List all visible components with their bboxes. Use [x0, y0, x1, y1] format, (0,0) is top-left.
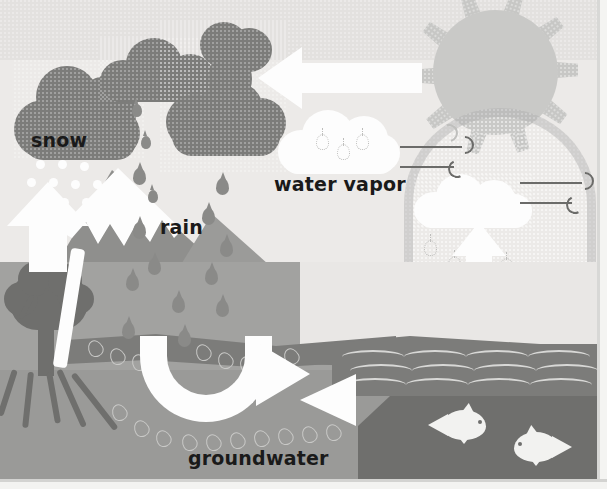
label-water-vapor: water vapor — [274, 173, 406, 195]
shoreline-plain — [300, 262, 600, 346]
rain-drop-icon — [132, 104, 142, 117]
wind-swirl-icon — [445, 157, 468, 180]
wind-line — [520, 202, 572, 204]
diagram-canvas: snow rain water vapor groundwater — [0, 0, 600, 482]
vapor-droplet-icon — [424, 240, 437, 256]
label-groundwater: groundwater — [188, 447, 329, 469]
rain-drop-icon — [216, 300, 229, 317]
storm-cloud-icon — [160, 22, 286, 174]
wave-line — [468, 378, 530, 392]
condensation-cloud-icon — [414, 174, 532, 228]
rain-drop-icon — [126, 274, 139, 291]
wave-line — [466, 350, 528, 364]
snowflake-icon — [60, 198, 69, 207]
wave-line — [528, 350, 590, 364]
fish-eye — [478, 420, 482, 424]
wave-line — [474, 364, 536, 378]
rain-drop-icon — [172, 296, 185, 313]
wave-line — [404, 350, 466, 364]
wave-line — [406, 378, 468, 392]
snowflake-icon — [38, 196, 47, 205]
rain-drop-icon — [148, 258, 161, 275]
wind-swirl-icon — [437, 121, 462, 146]
wind-swirl-group-pale — [404, 124, 464, 154]
snowflake-icon — [58, 160, 67, 169]
rain-drop-icon — [178, 330, 191, 347]
rain-drop-icon — [220, 240, 233, 257]
wind-line — [520, 182, 582, 184]
wave-line — [536, 364, 598, 378]
snowflake-icon — [27, 178, 36, 187]
wave-line — [342, 350, 404, 364]
page-edge-bottom — [0, 482, 607, 489]
wave-line — [412, 364, 474, 378]
water-cycle-diagram: snow rain water vapor groundwater — [0, 0, 607, 489]
runoff-arrow-curved — [140, 336, 292, 422]
rain-drop-icon — [141, 136, 151, 149]
wave-line — [530, 378, 592, 392]
wave-line — [350, 364, 412, 378]
rain-drop-icon — [133, 168, 146, 185]
tree-trunk — [38, 300, 54, 376]
snowflake-icon — [93, 180, 102, 189]
snowflake-icon — [36, 160, 45, 169]
fish-icon — [510, 432, 572, 466]
label-rain: rain — [160, 216, 203, 238]
snowflake-icon — [82, 198, 91, 207]
label-snow: snow — [31, 129, 87, 151]
snowflake-icon — [71, 180, 80, 189]
wind-swirl-group — [520, 176, 600, 220]
wind-line — [400, 166, 454, 168]
snowflake-icon — [72, 214, 81, 223]
rain-drop-icon — [133, 222, 146, 239]
snowflake-icon — [80, 162, 89, 171]
rain-drop-icon — [202, 208, 215, 225]
snowflake-icon — [49, 178, 58, 187]
rain-drop-icon — [216, 178, 229, 195]
vapor-droplet-icon — [356, 134, 369, 150]
rain-drop-icon — [205, 268, 218, 285]
fish-icon — [428, 410, 490, 444]
page-edge-right — [600, 0, 607, 489]
fish-eye — [518, 442, 522, 446]
rain-drop-icon — [122, 322, 135, 339]
rain-drop-icon — [148, 190, 158, 203]
runoff-arrow-curve — [140, 336, 272, 422]
vapor-droplet-icon — [337, 144, 350, 160]
wind-swirl-icon — [563, 193, 586, 216]
vapor-droplet-icon — [316, 134, 329, 150]
water-vapor-cloud-icon — [278, 108, 400, 174]
